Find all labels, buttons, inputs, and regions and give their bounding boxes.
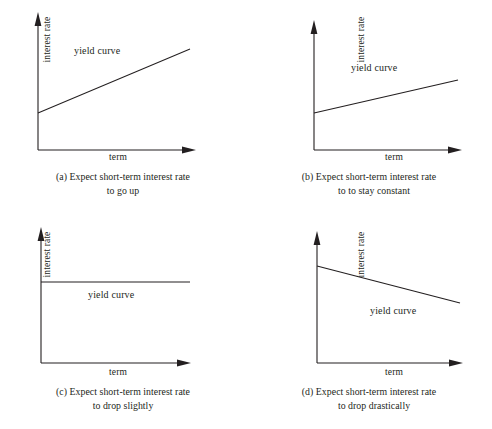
- x-axis-label: term: [314, 152, 474, 163]
- caption-line-1: (d) Expect short-term interest rate: [302, 386, 437, 397]
- panel-d-plot: [246, 215, 492, 375]
- caption-line-2: to drop drastically: [246, 399, 492, 413]
- panel-c-caption: (c) Expect short-term interest rate to d…: [0, 385, 246, 413]
- x-axis-label: term: [38, 152, 198, 163]
- yield-curve-label: yield curve: [370, 305, 416, 317]
- yield-curve-line: [317, 266, 460, 303]
- panel-b-caption: (b) Expect short-term interest rate to t…: [246, 170, 492, 198]
- caption-line-1: (c) Expect short-term interest rate: [56, 386, 190, 397]
- yield-curve-line: [38, 49, 190, 113]
- caption-line-1: (b) Expect short-term interest rate: [302, 171, 437, 182]
- panel-d-caption: (d) Expect short-term interest rate to d…: [246, 385, 492, 413]
- panel-a-plot: [0, 0, 246, 160]
- x-axis-label: term: [314, 367, 474, 378]
- yield-curve-line: [314, 80, 458, 113]
- y-axis-arrowhead: [311, 20, 318, 34]
- y-axis-label: interest rate: [42, 212, 53, 298]
- y-axis-label: interest rate: [42, 0, 53, 83]
- y-axis-arrowhead: [35, 12, 42, 26]
- panel-b: interest rate term yield curve (b) Expec…: [246, 0, 492, 214]
- x-axis-label: term: [38, 367, 198, 378]
- y-axis-arrowhead: [314, 231, 321, 245]
- caption-line-2: to go up: [0, 184, 246, 198]
- panel-a-caption: (a) Expect short-term interest rate to g…: [0, 170, 246, 198]
- caption-line-2: to to stay constant: [246, 184, 492, 198]
- caption-line-2: to drop slightly: [0, 399, 246, 413]
- panel-c: interest rate term yield curve (c) Expec…: [0, 215, 246, 429]
- yield-curve-label: yield curve: [351, 62, 397, 74]
- x-axis-arrowhead: [177, 360, 191, 367]
- yield-curve-label: yield curve: [74, 45, 120, 57]
- panel-d: interest rate term yield curve (d) Expec…: [246, 215, 492, 429]
- caption-line-1: (a) Expect short-term interest rate: [56, 171, 190, 182]
- y-axis-label: interest rate: [356, 212, 367, 298]
- x-axis-arrowhead: [449, 360, 463, 367]
- yield-curve-figure: interest rate term yield curve (a) Expec…: [0, 0, 492, 429]
- panel-b-plot: [246, 0, 492, 160]
- yield-curve-label: yield curve: [88, 289, 134, 301]
- panel-a: interest rate term yield curve (a) Expec…: [0, 0, 246, 214]
